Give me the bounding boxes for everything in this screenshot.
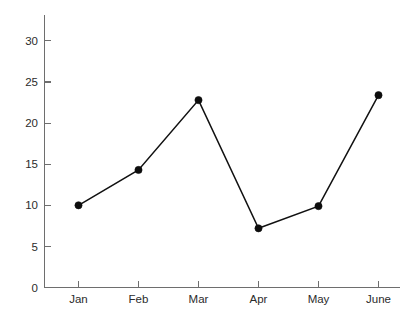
x-tick-label-jan: Jan <box>69 293 88 305</box>
y-tick-label-25: 25 <box>25 76 38 88</box>
y-axis-ticks <box>45 41 52 288</box>
data-point-feb <box>135 166 142 173</box>
x-axis-ticks <box>79 281 379 288</box>
y-tick-label-0: 0 <box>32 282 38 294</box>
data-point-may <box>315 203 322 210</box>
y-axis-tick-labels: 0 5 10 15 20 25 30 <box>25 35 38 294</box>
x-tick-label-apr: Apr <box>250 293 268 305</box>
y-tick-label-30: 30 <box>25 35 38 47</box>
y-tick-label-20: 20 <box>25 117 38 129</box>
chart-canvas: 0 5 10 15 20 25 30 Jan Feb Mar Apr May J… <box>0 0 418 321</box>
data-point-june <box>375 92 382 99</box>
y-tick-label-5: 5 <box>32 241 38 253</box>
data-point-apr <box>255 225 262 232</box>
series-line <box>79 95 379 228</box>
x-axis-tick-labels: Jan Feb Mar Apr May June <box>69 293 391 305</box>
y-tick-label-10: 10 <box>25 199 38 211</box>
line-chart: 0 5 10 15 20 25 30 Jan Feb Mar Apr May J… <box>0 0 418 321</box>
x-tick-label-feb: Feb <box>129 293 149 305</box>
x-tick-label-may: May <box>308 293 330 305</box>
series-markers <box>75 92 382 232</box>
data-point-jan <box>75 202 82 209</box>
x-tick-label-mar: Mar <box>189 293 209 305</box>
x-tick-label-june: June <box>366 293 391 305</box>
data-point-mar <box>195 96 202 103</box>
y-tick-label-15: 15 <box>25 158 38 170</box>
